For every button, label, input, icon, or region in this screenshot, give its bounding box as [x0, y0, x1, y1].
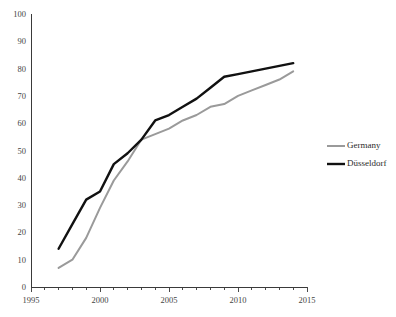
series-line-germany [59, 71, 294, 268]
y-tick-label: 10 [18, 255, 27, 265]
x-axis-tick-labels: 19952000200520102015 [23, 295, 316, 305]
y-tick-label: 20 [18, 227, 27, 237]
x-tick-label: 1995 [23, 295, 40, 305]
y-tick-label: 30 [18, 200, 27, 210]
y-tick-label: 40 [18, 173, 27, 183]
y-tick-label: 90 [18, 36, 27, 46]
x-tick-label: 2005 [161, 295, 178, 305]
y-tick-label: 80 [18, 64, 27, 74]
x-tick-label: 2010 [230, 295, 247, 305]
legend-label-d-sseldorf: Düsseldorf [347, 158, 387, 168]
y-tick-label: 70 [18, 91, 27, 101]
x-tick-label: 2000 [92, 295, 109, 305]
line-chart: 0102030405060708090100 19952000200520102… [0, 0, 396, 317]
x-tick-label: 2015 [299, 295, 316, 305]
y-tick-label: 50 [18, 146, 27, 156]
y-tick-label: 60 [18, 118, 27, 128]
series-lines [59, 63, 294, 268]
y-tick-label: 0 [22, 282, 26, 292]
legend-label-germany: Germany [347, 140, 381, 150]
y-axis-tick-labels: 0102030405060708090100 [13, 9, 26, 292]
chart-legend: GermanyDüsseldorf [327, 140, 387, 168]
chart-page: 0102030405060708090100 19952000200520102… [0, 0, 396, 317]
x-axis-tick-marks [31, 287, 307, 292]
y-tick-label: 100 [13, 9, 26, 19]
